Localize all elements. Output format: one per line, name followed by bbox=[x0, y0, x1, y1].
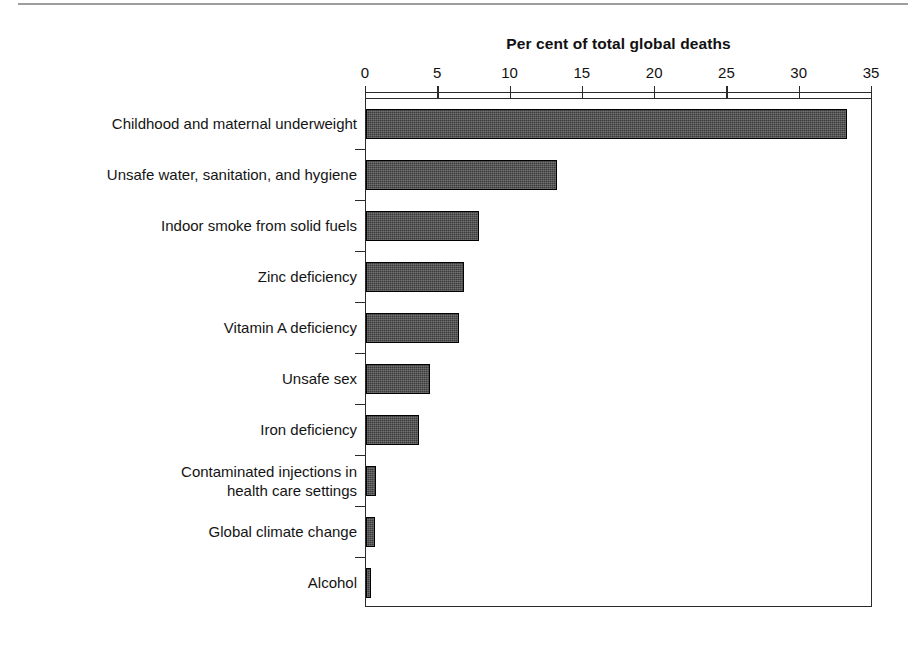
bar-row: Zinc deficiency bbox=[0, 251, 914, 302]
category-label: Alcohol bbox=[12, 557, 357, 608]
bar-row: Unsafe sex bbox=[0, 353, 914, 404]
x-axis-tick bbox=[799, 86, 800, 98]
bar bbox=[366, 160, 557, 190]
bar bbox=[366, 364, 430, 394]
category-label: Vitamin A deficiency bbox=[12, 302, 357, 353]
bar bbox=[366, 211, 479, 241]
chart-figure: Per cent of total global deaths 05101520… bbox=[0, 0, 914, 647]
category-label: Unsafe water, sanitation, and hygiene bbox=[12, 149, 357, 200]
category-label: Indoor smoke from solid fuels bbox=[12, 200, 357, 251]
category-label: Contaminated injections in health care s… bbox=[12, 455, 357, 506]
bar-row: Contaminated injections in health care s… bbox=[0, 455, 914, 506]
x-axis: 05101520253035 bbox=[365, 86, 872, 98]
bar-row: Global climate change bbox=[0, 506, 914, 557]
bar bbox=[366, 262, 464, 292]
category-label: Childhood and maternal underweight bbox=[12, 98, 357, 149]
x-axis-tick bbox=[365, 86, 366, 98]
x-axis-tick bbox=[510, 86, 511, 98]
bar-row: Indoor smoke from solid fuels bbox=[0, 200, 914, 251]
x-axis-tick bbox=[654, 86, 655, 98]
bar bbox=[366, 517, 375, 547]
x-axis-tick-label: 5 bbox=[433, 64, 441, 81]
category-label: Unsafe sex bbox=[12, 353, 357, 404]
bar bbox=[366, 109, 847, 139]
bar bbox=[366, 415, 419, 445]
x-axis-tick-label: 20 bbox=[646, 64, 663, 81]
x-axis-tick bbox=[726, 86, 727, 98]
x-axis-tick-label: 35 bbox=[863, 64, 880, 81]
category-label: Zinc deficiency bbox=[12, 251, 357, 302]
bar-row: Vitamin A deficiency bbox=[0, 302, 914, 353]
bar bbox=[366, 568, 371, 598]
bar-row: Childhood and maternal underweight bbox=[0, 98, 914, 149]
x-axis-tick-label: 25 bbox=[718, 64, 735, 81]
scan-artifact-line bbox=[18, 3, 908, 5]
bar-row: Iron deficiency bbox=[0, 404, 914, 455]
bar-row: Unsafe water, sanitation, and hygiene bbox=[0, 149, 914, 200]
x-axis-tick-label: 30 bbox=[790, 64, 807, 81]
x-axis-tick bbox=[437, 86, 438, 98]
bar-row: Alcohol bbox=[0, 557, 914, 608]
x-axis-tick bbox=[871, 86, 872, 98]
x-axis-tick-label: 0 bbox=[361, 64, 369, 81]
x-axis-tick-label: 10 bbox=[501, 64, 518, 81]
category-label: Global climate change bbox=[12, 506, 357, 557]
category-label: Iron deficiency bbox=[12, 404, 357, 455]
x-axis-line bbox=[365, 92, 871, 93]
bar-rows: Childhood and maternal underweightUnsafe… bbox=[0, 98, 914, 607]
bar bbox=[366, 313, 459, 343]
bar bbox=[366, 466, 376, 496]
chart-title: Per cent of total global deaths bbox=[365, 35, 872, 53]
x-axis-tick-label: 15 bbox=[574, 64, 591, 81]
x-axis-tick bbox=[582, 86, 583, 98]
